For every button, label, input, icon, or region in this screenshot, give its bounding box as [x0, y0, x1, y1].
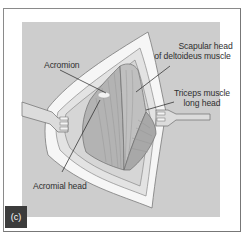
label-acromial-head: Acromial head	[33, 182, 87, 192]
label-scapular-head: Scapular head of deltoideus muscle	[168, 42, 243, 61]
label-triceps: Triceps muscle long head	[166, 89, 238, 108]
acromion-bone	[98, 92, 110, 98]
panel-label-badge: (c)	[5, 206, 27, 228]
label-scapular-head-line2: of deltoideus muscle	[142, 52, 243, 62]
surgical-illustration	[0, 0, 243, 235]
label-acromion: Acromion	[44, 61, 80, 71]
right-retractor	[156, 110, 210, 126]
label-triceps-line2: long head	[166, 99, 238, 109]
